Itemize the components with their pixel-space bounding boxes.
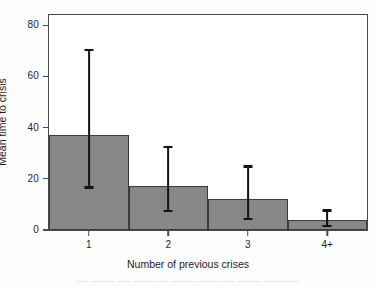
y-tick-40: 40 (27, 123, 49, 133)
x-tick-3: 3 (245, 230, 251, 250)
x-tick-mark (88, 230, 89, 236)
y-tick-label: 40 (27, 123, 39, 133)
error-bar-cap-lower (323, 225, 332, 227)
error-bar-cap-upper (164, 146, 173, 148)
x-tick-mark (168, 230, 169, 236)
error-bar-cap-upper (84, 49, 93, 51)
error-bar-1 (83, 50, 95, 230)
error-bar-3 (242, 167, 254, 230)
y-tick-mark (43, 76, 49, 77)
y-axis-title: Mean time to crisis (0, 78, 8, 166)
y-tick-label: 80 (27, 20, 39, 30)
x-axis-title: Number of previous crises (0, 258, 376, 270)
y-tick-label: 0 (33, 225, 39, 235)
plot-area: 020406080 1234+ (48, 14, 368, 231)
error-bar-stem (88, 50, 90, 187)
x-tick-label: 4+ (322, 240, 333, 250)
error-bar-stem (167, 147, 169, 211)
x-tick-mark (247, 230, 248, 236)
y-tick-label: 60 (27, 71, 39, 81)
x-tick-label: 3 (245, 240, 251, 250)
x-tick-label: 1 (86, 240, 92, 250)
bar-chart-figure: Mean time to crisis 020406080 1234+ Numb… (0, 0, 376, 288)
x-tick-mark (327, 230, 328, 236)
error-bar-cap-lower (164, 210, 173, 212)
x-tick-2: 2 (165, 230, 171, 250)
y-tick-mark (43, 127, 49, 128)
y-tick-60: 60 (27, 71, 49, 81)
x-tick-1: 1 (86, 230, 92, 250)
y-tick-label: 20 (27, 174, 39, 184)
error-bar-cap-lower (243, 218, 252, 220)
error-bar-cap-lower (84, 186, 93, 188)
error-bar-4+ (321, 211, 333, 230)
y-tick-mark (43, 25, 49, 26)
error-bar-stem (326, 211, 328, 227)
error-bar-cap-upper (323, 209, 332, 211)
x-tick-label: 2 (165, 240, 171, 250)
x-tick-4+: 4+ (322, 230, 333, 250)
error-bar-cap-upper (243, 165, 252, 167)
y-tick-80: 80 (27, 20, 49, 30)
error-bar-stem (247, 167, 249, 220)
error-bar-2 (162, 147, 174, 230)
y-tick-0: 0 (33, 225, 49, 235)
scan-artifact-text: — —— — ——— —— ——— —— ——— (0, 274, 376, 288)
y-tick-20: 20 (27, 174, 49, 184)
